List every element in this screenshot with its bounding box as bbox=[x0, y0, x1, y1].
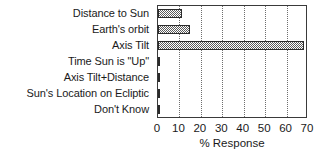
category-label: Distance to Sun bbox=[0, 5, 153, 21]
x-tick-label: 10 bbox=[172, 122, 185, 135]
bar bbox=[158, 57, 160, 66]
x-tick-label: 60 bbox=[279, 122, 292, 135]
x-axis-tick-labels: 010203040506070 bbox=[157, 122, 307, 138]
category-label: Axis Tilt+Distance bbox=[0, 70, 153, 86]
bar-chart: Distance to Sun Earth's orbit Axis Tilt … bbox=[0, 0, 323, 166]
category-label: Time Sun is "Up" bbox=[0, 53, 153, 69]
bar-series bbox=[158, 6, 306, 117]
x-tick-label: 0 bbox=[154, 122, 160, 135]
x-tick-label: 30 bbox=[215, 122, 228, 135]
x-tick-label: 20 bbox=[193, 122, 206, 135]
category-label: Sun's Location on Ecliptic bbox=[0, 86, 153, 102]
category-axis-labels: Distance to Sun Earth's orbit Axis Tilt … bbox=[0, 5, 153, 118]
bar-row bbox=[158, 101, 306, 117]
category-label: Don't Know bbox=[0, 102, 153, 118]
category-label: Axis Tilt bbox=[0, 37, 153, 53]
bar-row bbox=[158, 22, 306, 38]
bar-row bbox=[158, 6, 306, 22]
bar bbox=[158, 105, 160, 114]
bar bbox=[158, 73, 160, 82]
bar bbox=[158, 41, 304, 50]
x-tick-label: 40 bbox=[236, 122, 249, 135]
bar-row bbox=[158, 69, 306, 85]
plot-area bbox=[157, 5, 307, 118]
x-tick-label: 50 bbox=[258, 122, 271, 135]
bar bbox=[158, 89, 160, 98]
bar bbox=[158, 25, 190, 34]
bar-row bbox=[158, 85, 306, 101]
bar bbox=[158, 9, 182, 18]
bar-row bbox=[158, 38, 306, 54]
x-axis-title: % Response bbox=[157, 137, 307, 150]
x-tick-label: 70 bbox=[301, 122, 314, 135]
bar-row bbox=[158, 54, 306, 70]
category-label: Earth's orbit bbox=[0, 21, 153, 37]
